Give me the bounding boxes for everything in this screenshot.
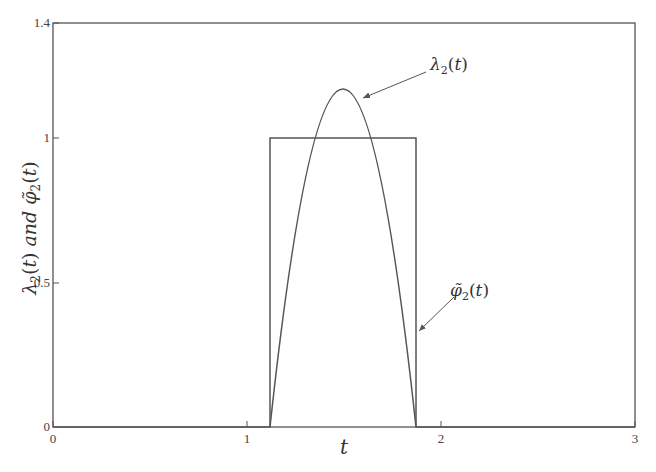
- x-axis-title: t: [340, 435, 349, 459]
- y-ticks: [53, 23, 59, 283]
- y-tick-label: 0: [44, 419, 51, 434]
- y-tick-label: 1.4: [34, 15, 51, 30]
- x-tick-label: 0: [50, 431, 57, 446]
- annotation-label-lambda: λ2(t): [429, 54, 468, 77]
- x-tick-label: 3: [632, 431, 639, 446]
- x-ticks: [53, 421, 635, 427]
- annotation-arrow-lambda: [363, 72, 426, 98]
- series-phi-pulse: [53, 138, 635, 427]
- x-tick-label: 1: [244, 431, 251, 446]
- y-axis-title: λ2(t) and φ̃2(t): [18, 161, 43, 295]
- chart: 0 1 2 3 0 0.5 1 1.4 λ2(t) φ̃2(t) t λ2(t)…: [0, 0, 656, 472]
- annotation-label-phi: φ̃2(t): [450, 280, 489, 303]
- annotation-arrow-phi: [419, 297, 454, 331]
- series-lambda-parabola: [270, 89, 416, 427]
- x-tick-label: 2: [438, 431, 445, 446]
- y-tick-label: 1: [44, 130, 51, 145]
- plot-area: [53, 23, 635, 427]
